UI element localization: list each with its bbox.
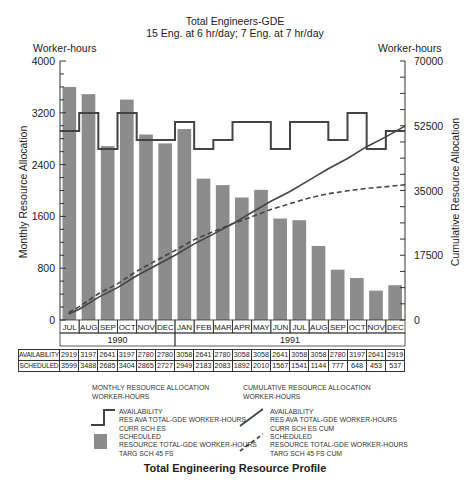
legend-cumulative-availability: AVAILABILITY RES AVA TOTAL-GDE WORKER-HO… <box>270 408 397 433</box>
legend-bar-swatch <box>94 434 107 449</box>
legend-cumulative-scheduled: SCHEDULED RESOURCE TOTAL-GDE WORKER-HOUR… <box>270 433 408 458</box>
legend-text: SCHEDULED <box>270 433 408 441</box>
legend-text: RES AVA TOTAL-GDE WORKER-HOURS <box>270 416 397 424</box>
legend-text: TARG SCH 45 FS CUM <box>270 450 408 458</box>
legend-step-icon <box>91 410 115 425</box>
legend-text: RESOURCE TOTAL-GDE WORKER-HOURS <box>270 441 408 449</box>
legend-text: AVAILABILITY <box>270 408 397 416</box>
legend-text: RESOURCE TOTAL-GDE WORKER-HOURS <box>119 441 257 449</box>
legend-text: SCHEDULED <box>119 433 257 441</box>
legend-monthly-scheduled: SCHEDULED RESOURCE TOTAL-GDE WORKER-HOUR… <box>119 433 257 458</box>
legend-text: TARG SCH 45 FS <box>119 450 257 458</box>
legend-monthly-availability: AVAILABILITY RES AVA TOTAL-GDE WORKER-HO… <box>119 408 246 433</box>
legend-text: CURR SCH ES <box>119 425 246 433</box>
legend-text: AVAILABILITY <box>119 408 246 416</box>
legend-text: CURR SCH ES CUM <box>270 425 397 433</box>
figure-caption: Total Engineering Resource Profile <box>0 462 470 474</box>
legend-text: RES AVA TOTAL-GDE WORKER-HOURS <box>119 416 246 424</box>
